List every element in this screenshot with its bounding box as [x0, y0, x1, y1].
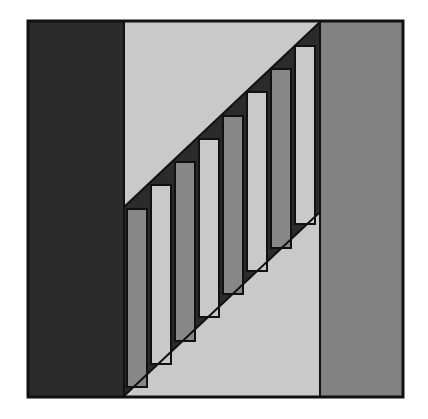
- bar-2: [151, 185, 171, 364]
- bar-7: [271, 69, 291, 248]
- bar-8: [295, 46, 315, 224]
- bar-6: [247, 92, 267, 271]
- bar-1: [127, 209, 147, 387]
- left-dark-panel: [29, 22, 124, 396]
- bar-4: [199, 139, 219, 317]
- bar-5: [223, 116, 243, 294]
- artwork-canvas: Geometric Abstract Composition: [0, 0, 428, 419]
- bar-3: [175, 162, 195, 341]
- artwork-svg: [0, 0, 428, 419]
- right-gray-panel: [320, 22, 402, 396]
